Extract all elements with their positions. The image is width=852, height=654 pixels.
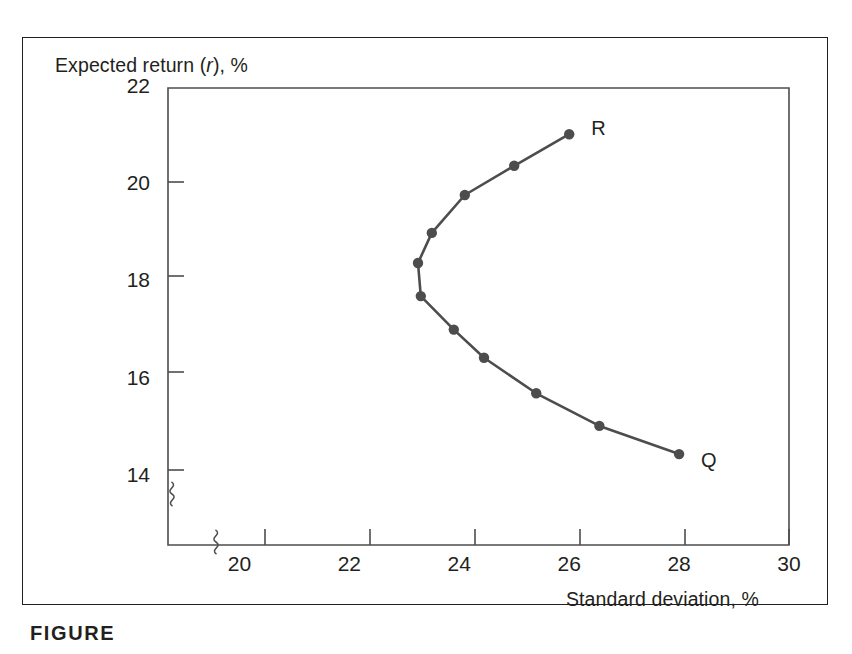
plot-frame — [168, 88, 789, 545]
data-point — [479, 353, 489, 363]
x-axis-tick-label: 22 — [329, 552, 369, 576]
series-line — [418, 134, 679, 454]
point-label-q: Q — [701, 449, 717, 472]
data-point — [531, 388, 541, 398]
data-point — [564, 129, 574, 139]
x-axis-tick-label: 24 — [439, 552, 479, 576]
y-axis-tick-label: 18 — [110, 268, 150, 292]
axis-frame — [168, 88, 789, 545]
chart-container: Expected return (r), % Standard deviatio… — [0, 0, 852, 654]
x-axis-tick-label: 26 — [549, 552, 589, 576]
x-axis-tick-label: 30 — [769, 552, 809, 576]
y-axis-tick-label: 22 — [110, 74, 150, 98]
data-point — [427, 228, 437, 238]
data-point — [594, 421, 604, 431]
series-points — [413, 129, 685, 459]
data-point — [413, 258, 423, 268]
axis-break-marks — [166, 482, 222, 555]
x-axis-title: Standard deviation, % — [566, 588, 759, 611]
scatter-line-plot — [0, 0, 852, 654]
tick-marks — [168, 182, 789, 545]
data-point — [449, 324, 459, 334]
data-point — [509, 161, 519, 171]
y-axis-tick-label: 16 — [110, 366, 150, 390]
x-axis-tick-label: 28 — [659, 552, 699, 576]
y-axis-title: Expected return (r), % — [55, 54, 248, 77]
y-axis-tick-label: 14 — [110, 463, 150, 487]
data-point — [674, 449, 684, 459]
y-axis-title-suffix: ), % — [213, 54, 248, 76]
y-axis-title-prefix: Expected return ( — [55, 54, 206, 76]
data-point — [460, 190, 470, 200]
y-axis-tick-label: 20 — [110, 171, 150, 195]
x-axis-tick-label: 20 — [219, 552, 259, 576]
x-axis-break-icon — [210, 530, 222, 555]
point-label-r: R — [591, 117, 605, 140]
y-axis-title-variable: r — [206, 54, 213, 76]
data-point — [416, 291, 426, 301]
figure-caption: FIGURE — [30, 622, 115, 645]
